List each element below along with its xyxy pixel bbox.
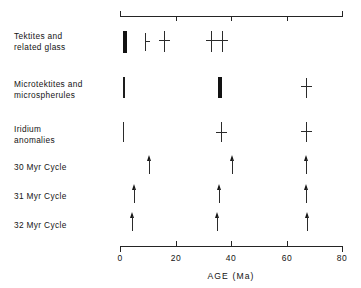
marker-tektites-3 — [159, 31, 170, 52]
marker-stem — [211, 31, 212, 52]
marker-bar — [123, 77, 125, 98]
marker-stem — [145, 33, 146, 51]
marker-crossbar — [159, 40, 170, 41]
marker-microtektites-2 — [217, 77, 222, 98]
axis-title: AGE (Ma) — [181, 271, 281, 281]
top-axis-tick-0 — [120, 11, 121, 17]
bottom-axis-line — [120, 246, 343, 247]
marker-stem — [132, 216, 133, 231]
plot-area: 0 20 40 60 80 AGE (Ma) — [0, 0, 361, 288]
marker-32myr-3 — [304, 212, 310, 231]
top-axis-tick-80 — [342, 11, 343, 17]
bottom-axis-tick-40 — [231, 241, 232, 246]
bottom-axis-tick-0 — [120, 246, 121, 252]
marker-bar — [218, 77, 222, 98]
marker-iridium-3 — [301, 122, 312, 142]
figure-panel: Tektites and related glass Microtektites… — [0, 0, 361, 288]
marker-stem — [306, 159, 307, 174]
axis-tick-label-0: 0 — [108, 253, 132, 263]
marker-stem — [149, 159, 150, 174]
marker-31myr-1 — [131, 184, 137, 203]
marker-tektites-5 — [217, 31, 228, 52]
marker-crossbar — [217, 40, 228, 41]
marker-30myr-1 — [146, 155, 152, 174]
marker-bar — [123, 122, 124, 142]
marker-tektites-2 — [140, 33, 150, 51]
marker-stem — [307, 216, 308, 231]
marker-31myr-3 — [303, 184, 309, 203]
top-axis-tick-60 — [287, 16, 288, 21]
bottom-axis-tick-60 — [287, 241, 288, 246]
marker-stem — [164, 31, 165, 52]
top-axis-tick-40 — [231, 16, 232, 21]
marker-tektites-1 — [122, 31, 128, 53]
marker-32myr-1 — [129, 212, 135, 231]
axis-tick-label-40: 40 — [219, 253, 243, 263]
marker-31myr-2 — [216, 184, 222, 203]
marker-stem — [306, 78, 307, 98]
marker-iridium-1 — [122, 122, 125, 142]
axis-tick-label-20: 20 — [164, 253, 188, 263]
marker-32myr-2 — [214, 212, 220, 231]
axis-tick-label-60: 60 — [275, 253, 299, 263]
bottom-axis-tick-80 — [342, 246, 343, 252]
marker-stem — [306, 122, 307, 142]
axis-tick-label-80: 80 — [330, 253, 354, 263]
marker-crossbar — [145, 41, 150, 42]
marker-stem — [232, 159, 233, 174]
marker-stem — [222, 31, 223, 52]
marker-crossbar — [216, 132, 227, 133]
bottom-axis-tick-20 — [176, 241, 177, 246]
marker-tektites-4 — [206, 31, 217, 52]
marker-crossbar — [206, 40, 217, 41]
marker-bar — [123, 31, 127, 53]
marker-crossbar — [301, 86, 312, 87]
marker-30myr-3 — [303, 155, 309, 174]
marker-stem — [217, 216, 218, 231]
marker-microtektites-1 — [122, 77, 126, 98]
marker-30myr-2 — [229, 155, 235, 174]
marker-iridium-2 — [216, 122, 227, 142]
marker-crossbar — [301, 131, 312, 132]
top-axis-tick-20 — [176, 16, 177, 21]
marker-stem — [219, 188, 220, 203]
marker-stem — [306, 188, 307, 203]
marker-stem — [134, 188, 135, 203]
marker-microtektites-3 — [301, 78, 312, 98]
